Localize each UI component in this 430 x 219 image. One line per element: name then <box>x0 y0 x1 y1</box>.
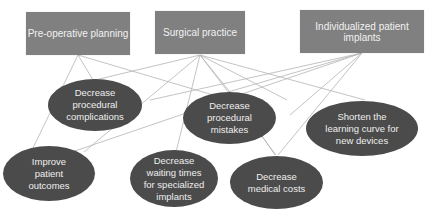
ellipse-label: Decrease procedural mistakes <box>207 100 252 136</box>
source-box-individualized-patient-implants: Individualized patient implants <box>300 10 424 53</box>
source-box-surgical-practice: Surgical practice <box>155 11 245 54</box>
outcome-decrease-waiting-times: Decrease waiting times for specialized i… <box>130 150 218 207</box>
outcome-shorten-learning-curve: Shorten the learning curve for new devic… <box>306 101 418 156</box>
ellipse-label: Decrease procedural complications <box>66 87 124 123</box>
outcome-improve-patient-outcomes: Improve patient outcomes <box>3 146 95 201</box>
outcome-decrease-medical-costs: Decrease medical costs <box>230 156 323 209</box>
ellipse-label: Decrease medical costs <box>248 171 306 195</box>
box-label: Surgical practice <box>163 27 237 38</box>
source-box-pre-operative-planning: Pre-operative planning <box>26 12 130 55</box>
ellipse-label: Shorten the learning curve for new devic… <box>325 111 398 147</box>
box-label: Individualized patient implants <box>300 21 424 43</box>
box-label: Pre-operative planning <box>28 28 129 39</box>
ellipse-label: Decrease waiting times for specialized i… <box>144 155 205 203</box>
outcome-decrease-procedural-complications: Decrease procedural complications <box>48 79 142 131</box>
outcome-decrease-procedural-mistakes: Decrease procedural mistakes <box>183 92 276 144</box>
ellipse-label: Improve patient outcomes <box>28 156 69 192</box>
